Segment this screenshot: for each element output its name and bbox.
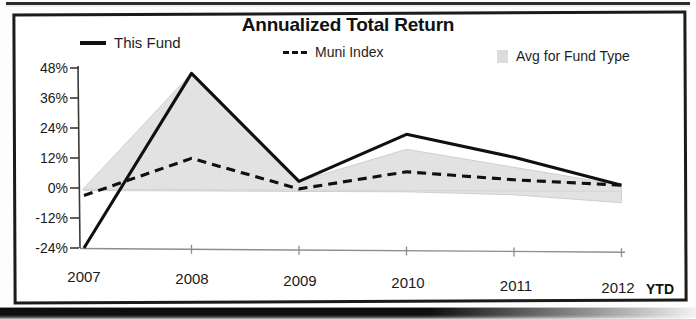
chart-screenshot: Annualized Total Return This Fund Muni I… [0, 0, 696, 319]
x-axis-labels: 2007 2008 2009 2010 2011 2012 YTD [0, 0, 696, 319]
x-tick-label: 2012 [601, 279, 634, 296]
x-tick-label: 2011 [500, 277, 532, 294]
chart-plot: Annualized Total Return This Fund Muni I… [0, 0, 696, 319]
scan-bottom-band-fade [430, 306, 696, 319]
x-tick-label: 2008 [175, 270, 208, 287]
x-axis-ytd-label: YTD [646, 281, 674, 297]
x-tick-label: 2009 [283, 272, 316, 289]
x-tick-label: 2010 [391, 274, 424, 291]
x-tick-label: 2007 [67, 268, 100, 285]
